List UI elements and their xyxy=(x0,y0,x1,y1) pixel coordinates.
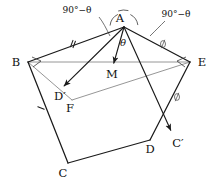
tick-on-BC xyxy=(38,107,44,110)
phi-mark-on-ACprime xyxy=(175,93,180,101)
vertex-label-M: M xyxy=(106,67,118,81)
vertex-label-D: D xyxy=(145,142,154,156)
edge-A-B xyxy=(28,27,124,62)
angle-label-right: 90°−θ xyxy=(162,9,191,19)
polygon-edges-group xyxy=(28,27,190,163)
vertex-label-F: F xyxy=(66,101,74,115)
leader-left-angle xyxy=(99,17,110,36)
phi-mark-on-AE xyxy=(161,40,166,48)
arc-right-at-A xyxy=(130,15,138,26)
vertex-label-Dp: D′ xyxy=(54,89,66,103)
geometry-diagram: ABCDED′C′MF 90°−θ 90°−θ θ xyxy=(0,0,216,183)
vertex-label-E: E xyxy=(198,55,206,69)
edge-B-C xyxy=(28,62,68,163)
vertex-label-C: C xyxy=(59,166,68,180)
edge-E-A xyxy=(124,27,190,62)
leader-right-angle xyxy=(150,21,165,36)
vertex-label-Cp: C′ xyxy=(172,136,184,150)
angle-label-theta: θ xyxy=(120,37,126,48)
angle-label-left: 90°−θ xyxy=(63,5,92,15)
line-F-E xyxy=(72,62,190,100)
vertex-label-A: A xyxy=(115,11,125,25)
geometry-canvas: ABCDED′C′MF 90°−θ 90°−θ θ xyxy=(0,0,216,183)
edge-C-D xyxy=(68,140,150,163)
vertex-label-B: B xyxy=(12,55,20,69)
tick-on-BC-stroke xyxy=(38,107,44,110)
leader-lines-group xyxy=(99,17,165,36)
